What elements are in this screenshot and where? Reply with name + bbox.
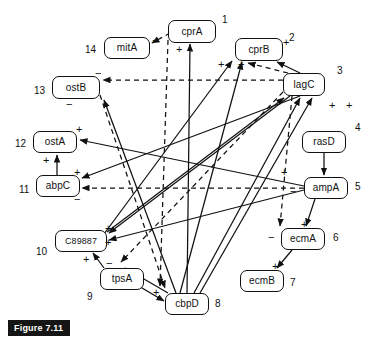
node-label: mitA bbox=[117, 43, 137, 53]
node-ecmA[interactable]: ecmA bbox=[281, 228, 325, 250]
node-rasD[interactable]: rasD bbox=[302, 131, 346, 153]
node-number-13: 13 bbox=[34, 85, 45, 96]
node-lagC[interactable]: lagC bbox=[283, 73, 325, 96]
node-number-5: 5 bbox=[355, 181, 361, 192]
edge-sign-lagC-in-right: + bbox=[346, 100, 352, 111]
edge-sign-ecmB-in-ecmA: + bbox=[272, 261, 278, 272]
edge-sign-mitA-in: − bbox=[152, 35, 158, 46]
figure-caption: Figure 7.11 bbox=[8, 320, 70, 336]
node-ecmB[interactable]: ecmB bbox=[240, 270, 284, 292]
network-diagram-canvas: cprA cprB lagC rasD ampA ecmA ecmB cbpD … bbox=[0, 0, 379, 344]
node-label: cprA bbox=[182, 27, 203, 37]
node-number-3: 3 bbox=[337, 65, 343, 76]
edge-sign-lagC-in-left: + bbox=[329, 100, 335, 111]
edge-sign-abpC-in-ampA: − bbox=[74, 194, 80, 205]
edge-sign-cprB-in-left: + bbox=[218, 59, 224, 70]
node-label: ostA bbox=[45, 137, 65, 147]
node-label: ostB bbox=[66, 83, 86, 93]
node-number-12: 12 bbox=[15, 138, 26, 149]
node-number-1: 1 bbox=[222, 14, 228, 25]
node-ampA[interactable]: ampA bbox=[304, 177, 348, 199]
node-ostA[interactable]: ostA bbox=[33, 131, 77, 153]
node-label: ecmB bbox=[249, 276, 275, 286]
node-label: lagC bbox=[294, 80, 315, 90]
node-number-9: 9 bbox=[87, 291, 93, 302]
edge-sign-ecmA-in-ampA: + bbox=[301, 219, 307, 230]
edge-sign-ecmA-in-lagC: − bbox=[268, 232, 274, 243]
edge-sign-ostB-in-bot: − bbox=[66, 99, 72, 110]
node-mitA[interactable]: mitA bbox=[104, 37, 150, 59]
node-label: ecmA bbox=[290, 234, 316, 244]
edge-sign-ostA-in-abpC: + bbox=[43, 155, 49, 166]
edge-sign-cprB-in-mid: + bbox=[238, 59, 244, 70]
edge-ampA-ostA bbox=[80, 140, 304, 186]
node-number-11: 11 bbox=[19, 184, 29, 195]
edge-sign-ampA-in-rasD: + bbox=[281, 167, 287, 178]
edge-lagC-ecmA bbox=[280, 96, 292, 226]
node-cprA[interactable]: cprA bbox=[168, 20, 216, 43]
node-label: tpsA bbox=[112, 274, 132, 284]
node-number-7: 7 bbox=[290, 277, 296, 288]
edge-sign-c89887-in-right: + bbox=[105, 237, 111, 248]
node-number-8: 8 bbox=[215, 298, 221, 309]
edge-sign-abpC-in-top: + bbox=[74, 167, 80, 178]
edge-lagC-C89887 bbox=[109, 96, 290, 233]
node-number-6: 6 bbox=[333, 232, 339, 243]
edge-ecmA-ecmB bbox=[277, 250, 292, 268]
node-number-4: 4 bbox=[355, 122, 361, 133]
node-cbpD[interactable]: cbpD bbox=[165, 293, 209, 315]
node-label: abpC bbox=[46, 181, 70, 191]
edge-sign-ampA-left: − bbox=[290, 186, 296, 197]
node-label: cprB bbox=[249, 45, 270, 55]
node-tpsA[interactable]: tpsA bbox=[100, 268, 144, 290]
node-label: ampA bbox=[313, 183, 340, 193]
node-ostB[interactable]: ostB bbox=[52, 76, 100, 99]
edge-sign-cprA-in: + bbox=[176, 44, 182, 55]
node-number-2: 2 bbox=[289, 32, 295, 43]
edge-sign-c89887-in-tpsA: + bbox=[83, 254, 89, 265]
node-number-10: 10 bbox=[36, 246, 47, 257]
edge-ampA-C89887 bbox=[109, 190, 304, 240]
edge-C89887-cprB bbox=[104, 61, 232, 234]
edge-lagC-cprB bbox=[277, 62, 300, 73]
node-label: cbpD bbox=[175, 299, 199, 309]
edge-cbpD-ostB bbox=[104, 100, 176, 293]
edge-sign-c89887-in-top: + bbox=[105, 223, 111, 234]
edge-sign-cbpD-in-tpsA: + bbox=[153, 287, 159, 298]
edge-sign-ostA-in-right: + bbox=[76, 124, 82, 135]
node-number-14: 14 bbox=[85, 44, 96, 55]
edge-sign-ostB-in-lagC: − bbox=[95, 68, 101, 79]
node-label: C89887 bbox=[65, 237, 97, 246]
node-C89887[interactable]: C89887 bbox=[55, 230, 107, 252]
edge-cprA-cbpD bbox=[160, 40, 168, 286]
edge-sign-cprB-in-lagC: + bbox=[283, 37, 289, 48]
edge-sign-tpsA-in-top: − bbox=[106, 258, 112, 269]
node-label: rasD bbox=[313, 137, 335, 147]
edge-tpsA-C89887 bbox=[93, 253, 104, 268]
